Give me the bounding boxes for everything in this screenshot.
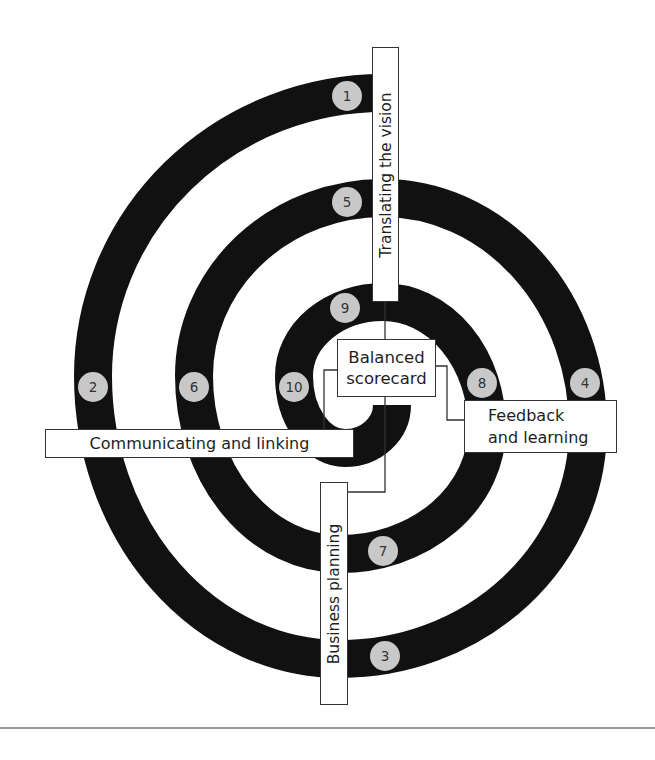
step-number: 1 bbox=[343, 88, 352, 104]
step-marker-4: 4 bbox=[570, 368, 600, 398]
step-marker-7: 7 bbox=[368, 536, 398, 566]
step-number: 2 bbox=[89, 379, 98, 395]
step-number: 4 bbox=[581, 375, 590, 391]
center-box-balanced-scorecard: Balanced scorecard bbox=[337, 339, 436, 397]
step-marker-10: 10 bbox=[279, 372, 309, 402]
step-marker-3: 3 bbox=[370, 641, 400, 671]
process-label-feedback-line1: Feedback bbox=[488, 405, 564, 427]
step-marker-2: 2 bbox=[78, 372, 108, 402]
center-label-line2: scorecard bbox=[346, 368, 427, 389]
step-marker-5: 5 bbox=[332, 187, 362, 217]
step-number: 8 bbox=[478, 375, 487, 391]
process-box-feedback-and-learning: Feedback and learning bbox=[464, 400, 617, 453]
process-box-communicating-and-linking: Communicating and linking bbox=[45, 429, 354, 458]
process-box-translating-the-vision: Translating the vision bbox=[372, 47, 399, 302]
process-label-feedback-line2: and learning bbox=[488, 427, 588, 449]
process-label-communicating: Communicating and linking bbox=[90, 434, 310, 454]
step-number: 10 bbox=[285, 379, 302, 395]
step-marker-8: 8 bbox=[467, 368, 497, 398]
center-label-line1: Balanced bbox=[348, 347, 424, 368]
step-marker-6: 6 bbox=[179, 372, 209, 402]
process-label-business-planning: Business planning bbox=[324, 523, 344, 664]
balanced-scorecard-spiral-diagram: 1 2 3 4 5 6 7 8 bbox=[0, 0, 655, 760]
process-box-business-planning: Business planning bbox=[320, 482, 348, 705]
step-number: 5 bbox=[343, 194, 352, 210]
step-marker-9: 9 bbox=[330, 293, 360, 323]
step-number: 9 bbox=[341, 300, 350, 316]
step-marker-1: 1 bbox=[332, 81, 362, 111]
step-number: 6 bbox=[190, 379, 199, 395]
step-number: 3 bbox=[381, 648, 390, 664]
step-number: 7 bbox=[379, 543, 388, 559]
process-label-translating: Translating the vision bbox=[376, 92, 396, 257]
